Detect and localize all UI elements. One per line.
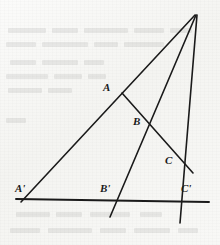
left-ray bbox=[21, 15, 195, 202]
point-label-C: C bbox=[165, 155, 172, 166]
point-label-B: B bbox=[133, 116, 140, 127]
point-label-C-prime: C' bbox=[181, 183, 191, 194]
geometry-diagram bbox=[0, 0, 220, 245]
baseline bbox=[16, 199, 209, 202]
point-label-B-prime: B' bbox=[100, 183, 110, 194]
point-label-A: A bbox=[103, 82, 110, 93]
figure-canvas: A B C A' B' C' bbox=[0, 0, 220, 245]
point-label-A-prime: A' bbox=[15, 183, 25, 194]
